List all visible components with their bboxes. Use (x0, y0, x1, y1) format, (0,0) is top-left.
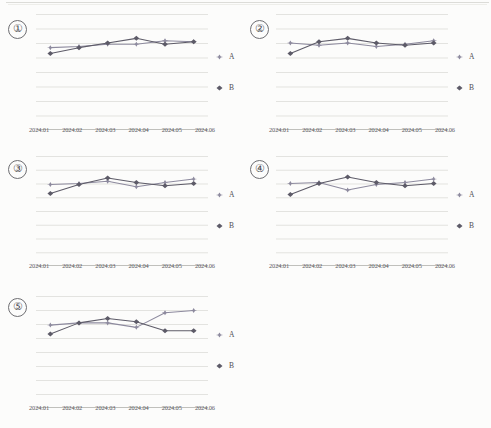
x-tick-label: 2024.05 (157, 404, 187, 411)
legend-item-b[interactable]: B (214, 361, 234, 371)
x-tick-label: 2024.06 (190, 404, 220, 411)
x-tick-label: 2024.02 (57, 404, 87, 411)
x-tick-label: 2024.01 (24, 404, 54, 411)
legend-label: B (229, 361, 234, 371)
x-tick-label: 2024.04 (124, 404, 154, 411)
legend-label: A (229, 330, 234, 340)
legend-item-a[interactable]: A (214, 330, 234, 340)
diamond-marker (214, 361, 225, 371)
plot-area-5 (36, 296, 208, 408)
x-axis-labels-5: 2024.012024.022024.032024.042024.052024.… (24, 404, 220, 411)
legend-5: AB (214, 330, 234, 371)
x-tick-label: 2024.03 (90, 404, 120, 411)
chart-panel-5: ⑤2024.012024.022024.032024.042024.052024… (0, 0, 491, 428)
triangle-marker (214, 330, 225, 340)
panel-number-5: ⑤ (8, 298, 27, 317)
